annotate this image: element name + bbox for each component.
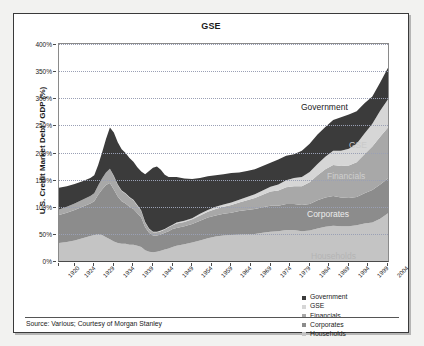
- x-tick-label: 1944: [161, 265, 175, 279]
- legend-label: Financials: [310, 313, 341, 320]
- footer-divider: [25, 317, 399, 318]
- x-tick-mark: [328, 263, 329, 266]
- y-axis-labels: 0%50%100%150%200%250%300%350%400%: [14, 43, 56, 262]
- x-tick-mark: [309, 263, 310, 266]
- legend-label: Corporates: [310, 322, 344, 329]
- source-note: Source: Various; Courtesy of Morgan Stan…: [26, 320, 162, 327]
- x-tick-mark: [152, 263, 153, 266]
- series-label-government: Government: [301, 102, 348, 112]
- x-tick-mark: [367, 263, 368, 266]
- x-tick-label: 1949: [180, 265, 194, 279]
- x-tick-mark: [132, 263, 133, 266]
- legend-swatch-icon: [302, 323, 306, 327]
- gridline: [59, 44, 388, 45]
- x-tick-label: 1929: [102, 265, 116, 279]
- x-tick-label: 1974: [278, 265, 292, 279]
- y-tick-label: 0%: [43, 258, 52, 265]
- legend-label: GSE: [310, 303, 324, 310]
- gridline: [59, 207, 388, 208]
- y-tick-label: 200%: [35, 149, 52, 156]
- y-tick-mark: [53, 234, 56, 235]
- legend-label: Households: [310, 331, 346, 338]
- x-tick-label: 1964: [239, 265, 253, 279]
- legend-swatch-icon: [302, 296, 306, 300]
- series-label-corporates: Corporates: [307, 209, 349, 219]
- legend-label: Government: [310, 294, 347, 301]
- x-tick-mark: [270, 263, 271, 266]
- x-tick-label: 1984: [318, 265, 332, 279]
- y-tick-label: 350%: [35, 68, 52, 75]
- gridline: [59, 234, 388, 235]
- y-tick-mark: [53, 153, 56, 154]
- legend-item[interactable]: Government: [302, 293, 402, 302]
- x-tick-label: 1989: [337, 265, 351, 279]
- x-tick-label: 1924: [83, 265, 97, 279]
- gridline: [59, 153, 388, 154]
- y-tick-label: 250%: [35, 122, 52, 129]
- x-tick-mark: [230, 263, 231, 266]
- legend-item[interactable]: Corporates: [302, 321, 402, 330]
- x-tick-label: 1954: [200, 265, 214, 279]
- chart-legend: GovernmentGSEFinancialsCorporatesHouseho…: [302, 293, 402, 339]
- legend-item[interactable]: Households: [302, 330, 402, 339]
- y-tick-label: 400%: [35, 41, 52, 48]
- x-tick-label: 1920: [67, 265, 81, 279]
- x-tick-label: 1939: [141, 265, 155, 279]
- x-tick-label: 1969: [259, 265, 273, 279]
- gridline: [59, 71, 388, 72]
- y-tick-mark: [53, 180, 56, 181]
- y-tick-label: 300%: [35, 95, 52, 102]
- y-tick-mark: [53, 261, 56, 262]
- plot-area: GovernmentGSEFinancialsCorporatesHouseho…: [58, 43, 389, 262]
- x-tick-mark: [289, 263, 290, 266]
- y-tick-label: 150%: [35, 176, 52, 183]
- gridline: [59, 125, 388, 126]
- series-label-financials: Financials: [327, 171, 365, 181]
- legend-swatch-icon: [302, 305, 306, 309]
- x-tick-label: 1999: [376, 265, 390, 279]
- legend-item[interactable]: GSE: [302, 302, 402, 311]
- x-axis-labels: 1920192419291934193919441949195419591964…: [58, 263, 389, 289]
- y-tick-label: 50%: [39, 230, 52, 237]
- x-tick-label: 2004: [396, 265, 410, 279]
- x-tick-mark: [74, 263, 75, 266]
- legend-swatch-icon: [302, 332, 306, 336]
- x-tick-mark: [113, 263, 114, 266]
- y-tick-mark: [53, 44, 56, 45]
- x-tick-mark: [172, 263, 173, 266]
- x-tick-mark: [58, 263, 59, 266]
- x-tick-mark: [387, 263, 388, 266]
- y-tick-mark: [53, 207, 56, 208]
- x-tick-mark: [348, 263, 349, 266]
- x-tick-mark: [93, 263, 94, 266]
- series-label-households: Households: [311, 251, 356, 261]
- x-tick-label: 1934: [122, 265, 136, 279]
- x-tick-label: 1979: [298, 265, 312, 279]
- gridline: [59, 98, 388, 99]
- series-label-gse: GSE: [349, 140, 367, 150]
- y-tick-mark: [53, 125, 56, 126]
- legend-item[interactable]: Financials: [302, 311, 402, 320]
- x-tick-mark: [250, 263, 251, 266]
- x-tick-label: 1959: [220, 265, 234, 279]
- y-tick-mark: [53, 98, 56, 99]
- chart-title: GSE: [14, 21, 408, 31]
- chart-card: GSE U.S. Credit Market Debt / GDP (%) 0%…: [13, 13, 409, 333]
- screenshot-root: GSE U.S. Credit Market Debt / GDP (%) 0%…: [0, 0, 424, 346]
- x-tick-label: 1994: [357, 265, 371, 279]
- x-tick-mark: [191, 263, 192, 266]
- y-tick-mark: [53, 71, 56, 72]
- x-tick-mark: [211, 263, 212, 266]
- y-tick-label: 100%: [35, 203, 52, 210]
